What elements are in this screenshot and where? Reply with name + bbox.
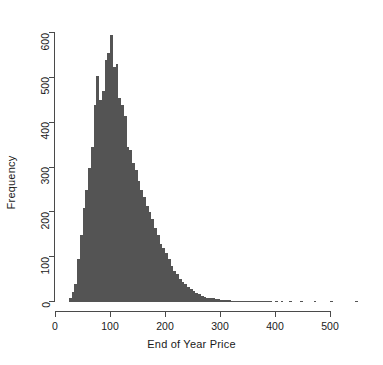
x-axis-title: End of Year Price — [0, 338, 383, 350]
histogram-bin — [300, 301, 303, 302]
x-axis: 0100200300400500 — [55, 311, 375, 319]
y-axis-tick-label: 0 — [41, 302, 52, 308]
x-axis-tick: 200 — [165, 311, 166, 317]
histogram-plot: Frequency 0100200300400500600 0100200300… — [0, 0, 383, 365]
x-axis-tick-label: 400 — [266, 320, 284, 332]
y-axis-tick-label: 100 — [41, 257, 52, 275]
y-axis-spine — [54, 33, 55, 302]
histogram-bin — [275, 301, 278, 302]
y-axis: 0100200300400500600 — [46, 33, 55, 302]
histogram-bin — [355, 301, 358, 302]
x-axis-tick-label: 0 — [52, 320, 58, 332]
x-axis-tick: 400 — [275, 311, 276, 317]
y-axis-tick-label: 200 — [41, 212, 52, 230]
x-axis-tick: 500 — [330, 311, 331, 317]
x-axis-tick: 100 — [110, 311, 111, 317]
y-axis-tick: 600 — [49, 32, 55, 33]
y-axis-tick-label: 400 — [41, 122, 52, 140]
histogram-bin — [330, 301, 333, 302]
y-axis-tick: 400 — [49, 122, 55, 123]
y-axis-title: Frequency — [0, 0, 22, 365]
histogram-bin — [289, 301, 292, 302]
x-axis-tick-label: 500 — [321, 320, 339, 332]
x-axis-spine — [55, 311, 330, 312]
y-axis-tick-label: 300 — [41, 167, 52, 185]
y-axis-tick: 200 — [49, 211, 55, 212]
histogram-bin — [270, 301, 273, 302]
x-axis-title-text: End of Year Price — [147, 338, 235, 350]
y-axis-title-text: Frequency — [5, 156, 17, 210]
y-axis-tick: 300 — [49, 167, 55, 168]
y-axis-tick-label: 500 — [41, 77, 52, 95]
histogram-bin — [314, 301, 317, 302]
histogram-bars — [55, 20, 375, 302]
histogram-bin — [281, 301, 284, 302]
y-axis-tick-label: 600 — [41, 33, 52, 51]
y-axis-tick: 100 — [49, 256, 55, 257]
x-axis-tick: 0 — [55, 311, 56, 317]
x-axis-tick-label: 300 — [211, 320, 229, 332]
x-axis-tick: 300 — [220, 311, 221, 317]
x-axis-tick-label: 100 — [101, 320, 119, 332]
y-axis-tick: 500 — [49, 77, 55, 78]
y-axis-tick: 0 — [49, 301, 55, 302]
plot-panel — [55, 20, 375, 302]
x-axis-tick-label: 200 — [156, 320, 174, 332]
